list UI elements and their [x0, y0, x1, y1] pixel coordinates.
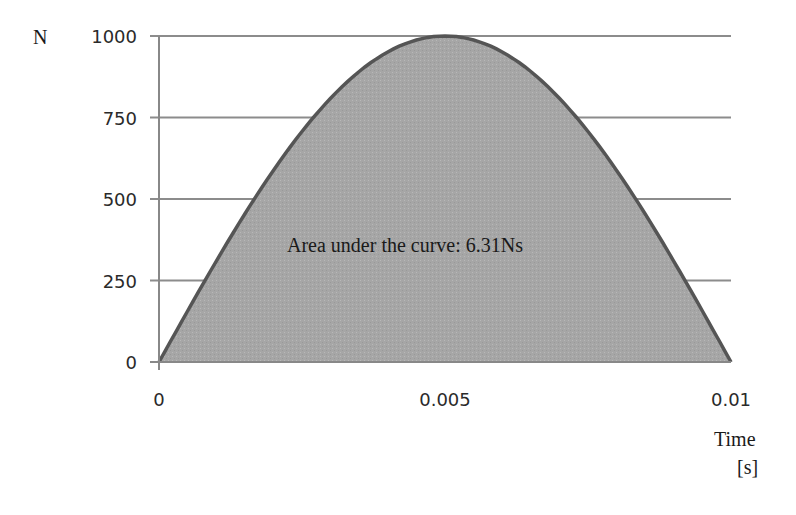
x-tick-label: 0.005 — [419, 389, 471, 410]
y-tick-label: 500 — [103, 189, 137, 210]
y-tick-label: 1000 — [91, 26, 137, 47]
x-axis-label-time: Time — [714, 428, 756, 450]
x-tick-label: 0.01 — [711, 389, 751, 410]
y-tick-label: 250 — [103, 271, 137, 292]
y-tick-label: 0 — [126, 352, 137, 373]
annotation-text: Area under the curve: 6.31Ns — [287, 234, 523, 256]
y-tick-label: 750 — [103, 108, 137, 129]
y-axis-unit-label: N — [33, 26, 47, 48]
area-chart: 0250500750100000.0050.01 N Area under th… — [0, 0, 796, 515]
x-tick-label: 0 — [153, 389, 164, 410]
x-axis-label-unit: [s] — [737, 456, 758, 478]
